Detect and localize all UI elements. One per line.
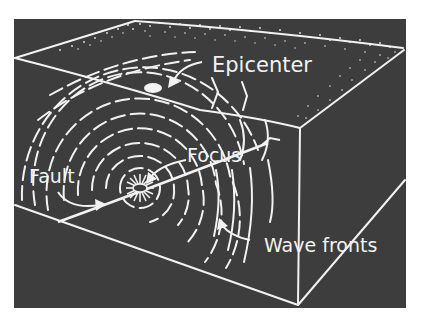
label-fault: Fault: [29, 165, 75, 187]
label-focus: Focus: [187, 144, 241, 166]
label-wave-fronts: Wave fronts: [264, 234, 377, 256]
label-epicenter: Epicenter: [212, 53, 312, 77]
epicenter-marker: [144, 83, 162, 93]
earthquake-diagram: Epicenter Focus Fault Wave fronts: [0, 0, 422, 323]
